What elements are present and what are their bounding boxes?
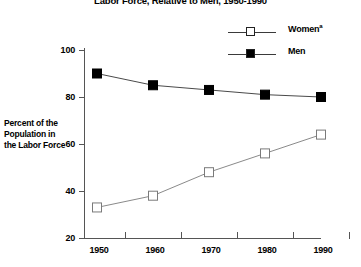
data-point-men-1980[interactable] — [261, 90, 270, 99]
data-point-men-1970[interactable] — [205, 85, 214, 94]
data-point-women-1950[interactable] — [93, 203, 102, 212]
data-point-women-1970[interactable] — [205, 168, 214, 177]
series-men — [93, 69, 326, 102]
series-layer — [0, 0, 361, 267]
chart-figure: Labor Force, Relative to Men, 1950-1990 … — [0, 0, 361, 267]
data-point-women-1990[interactable] — [317, 130, 326, 139]
data-point-men-1950[interactable] — [93, 69, 102, 78]
data-point-men-1990[interactable] — [317, 93, 326, 102]
data-point-women-1960[interactable] — [149, 191, 158, 200]
series-women — [93, 130, 326, 212]
data-point-men-1960[interactable] — [149, 81, 158, 90]
data-point-women-1980[interactable] — [261, 149, 270, 158]
